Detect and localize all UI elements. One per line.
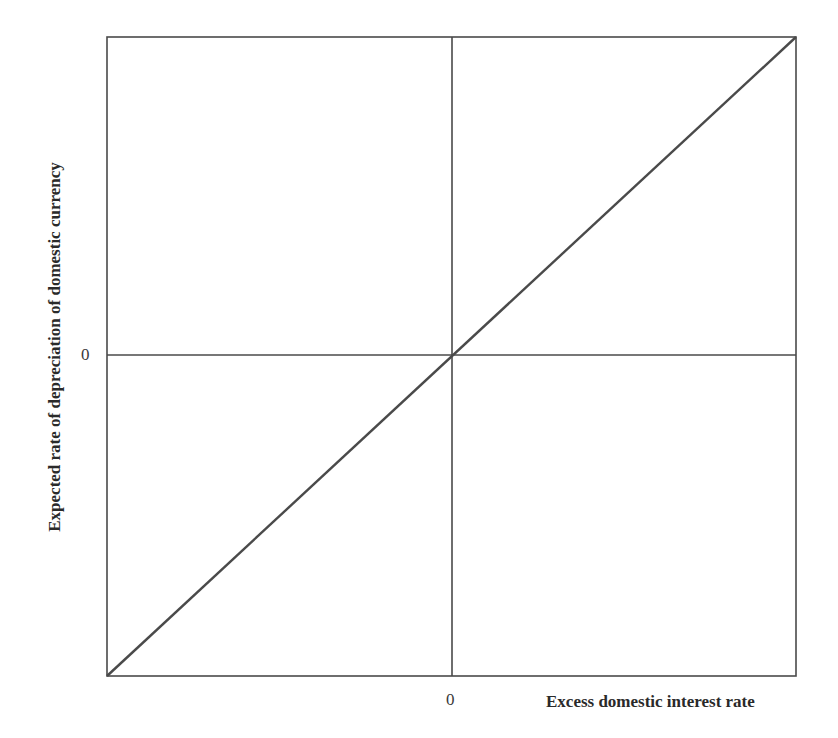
chart-canvas [0,0,838,738]
y-axis-label: Expected rate of depreciation of domesti… [45,162,65,532]
x-axis-tick-zero: 0 [446,690,455,710]
x-axis-label: Excess domestic interest rate [546,692,755,712]
y-axis-tick-zero: 0 [81,345,90,365]
